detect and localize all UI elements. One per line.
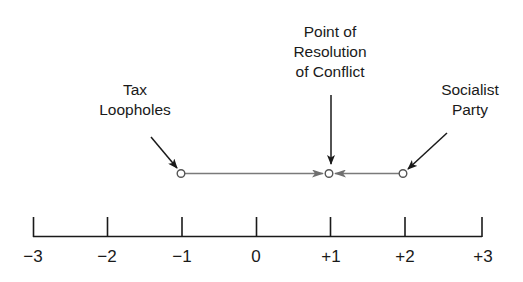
number-line-diagram <box>0 0 523 282</box>
resolution-point <box>325 170 333 178</box>
socialist-party-point <box>399 170 407 178</box>
axis <box>33 217 482 237</box>
tax-loopholes-label: Tax Loopholes <box>85 80 185 120</box>
tax-pointer-arrow <box>151 137 177 168</box>
tick-label-plus-1: +1 <box>311 247 351 267</box>
tick-label-plus-2: +2 <box>385 247 425 267</box>
tick-label-minus-3: −3 <box>13 247 53 267</box>
tick-label-plus-3: +3 <box>463 247 503 267</box>
resolution-label: Point of Resolution of Conflict <box>275 22 385 82</box>
tick-label-minus-1: −1 <box>162 247 202 267</box>
tax-loopholes-point <box>177 170 185 178</box>
socialist-party-label: Socialist Party <box>420 80 520 120</box>
tick-label-minus-2: −2 <box>87 247 127 267</box>
tick-label-0: 0 <box>236 247 276 267</box>
socialist-pointer-arrow <box>408 133 447 169</box>
